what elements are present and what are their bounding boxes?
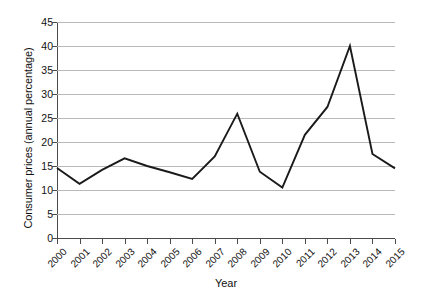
y-tick-label: 5 [36, 209, 53, 220]
plot-area [57, 22, 395, 238]
line-chart: Consumer prices (annual percentage) 0510… [0, 0, 426, 300]
y-tick-label: 30 [36, 89, 53, 100]
y-tick-label: 25 [36, 113, 53, 124]
y-tick-label: 45 [36, 17, 53, 28]
series-line-consumer-prices [57, 22, 395, 238]
y-tick-label: 15 [36, 161, 53, 172]
x-tick-mark [395, 239, 396, 244]
y-tick-label: 20 [36, 137, 53, 148]
y-tick-label: 35 [36, 65, 53, 76]
y-tick-label: 40 [36, 41, 53, 52]
x-axis-tick-labels: 2000200120022003200420052006200720082009… [57, 239, 395, 279]
x-axis-title: Year [57, 277, 395, 289]
y-tick-label: 10 [36, 185, 53, 196]
y-tick-label: 0 [36, 233, 53, 244]
